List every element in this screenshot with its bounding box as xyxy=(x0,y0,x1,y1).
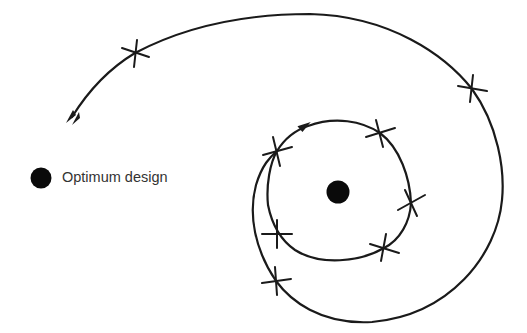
direction-arrow-icon xyxy=(297,122,312,133)
legend-label: Optimum design xyxy=(62,169,168,185)
optimum-point xyxy=(327,181,350,204)
iteration-mark xyxy=(370,234,399,261)
legend-marker-icon xyxy=(31,168,52,189)
iteration-mark xyxy=(398,190,425,216)
iteration-mark xyxy=(122,40,149,67)
iteration-mark xyxy=(262,267,291,295)
optimization-spiral-diagram xyxy=(0,0,527,333)
start-arrow-icon xyxy=(66,110,80,125)
